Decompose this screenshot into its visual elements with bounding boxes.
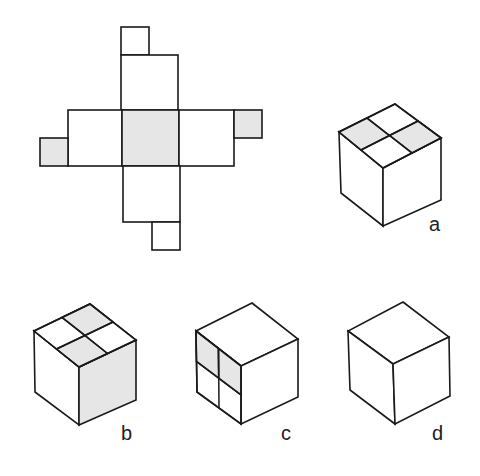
cube-option-a[interactable]: a bbox=[339, 104, 441, 235]
option-label-d: d bbox=[432, 422, 443, 444]
option-label-b: b bbox=[121, 422, 132, 444]
cube-option-b[interactable]: b bbox=[34, 304, 136, 444]
net-bottom-face bbox=[123, 166, 180, 222]
net-left-face bbox=[68, 110, 122, 166]
cube-net-figure: a b c d bbox=[0, 0, 480, 476]
net-center-face bbox=[122, 110, 179, 166]
option-label-a: a bbox=[429, 213, 441, 235]
cube-option-d[interactable]: d bbox=[348, 302, 450, 444]
net-top-tab bbox=[121, 27, 149, 55]
cube-net bbox=[40, 27, 262, 250]
option-label-c: c bbox=[281, 422, 291, 444]
net-right-tab bbox=[234, 110, 262, 138]
net-top-face bbox=[121, 55, 178, 110]
net-bottom-tab bbox=[152, 222, 180, 250]
net-left-tab bbox=[40, 138, 68, 166]
cube-option-c[interactable]: c bbox=[196, 303, 298, 444]
net-right-face bbox=[179, 110, 234, 166]
